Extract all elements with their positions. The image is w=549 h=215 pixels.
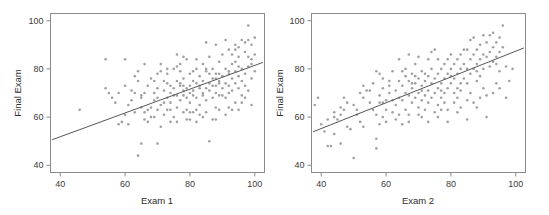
scatter-point bbox=[401, 84, 404, 87]
scatter-point bbox=[398, 80, 401, 83]
scatter-point bbox=[375, 137, 378, 140]
scatter-point bbox=[385, 109, 388, 112]
scatter-plot-exam2-svg: 406080100 406080100 Exam 2 Final Exam bbox=[274, 0, 549, 215]
scatter-point bbox=[104, 58, 107, 61]
scatter-point bbox=[182, 56, 185, 59]
scatter-point bbox=[476, 70, 479, 73]
scatter-point bbox=[166, 72, 169, 75]
scatter-point bbox=[189, 92, 192, 95]
scatter-point bbox=[231, 77, 234, 80]
scatter-point bbox=[437, 87, 440, 90]
scatter-point bbox=[208, 56, 211, 59]
scatter-point bbox=[411, 101, 414, 104]
scatter-point bbox=[498, 87, 501, 90]
scatter-point bbox=[450, 82, 453, 85]
scatter-point bbox=[469, 72, 472, 75]
scatter-point bbox=[356, 109, 359, 112]
scatter-point bbox=[153, 116, 156, 119]
scatter-point bbox=[385, 121, 388, 124]
y-axis-label-left: Final Exam bbox=[12, 69, 23, 117]
scatter-point bbox=[472, 36, 475, 39]
scatter-point bbox=[218, 60, 221, 63]
x-tick-label: 80 bbox=[446, 179, 456, 189]
scatter-point bbox=[404, 92, 407, 95]
scatter-point bbox=[427, 58, 430, 61]
scatter-point bbox=[198, 75, 201, 78]
scatter-point bbox=[234, 48, 237, 51]
scatter-point bbox=[153, 80, 156, 83]
scatter-point bbox=[369, 89, 372, 92]
scatter-point bbox=[359, 121, 362, 124]
scatter-point bbox=[466, 118, 469, 121]
scatter-point bbox=[137, 154, 140, 157]
y-tick-label: 60 bbox=[33, 112, 43, 122]
scatter-point bbox=[218, 94, 221, 97]
scatter-point bbox=[179, 63, 182, 66]
scatter-point bbox=[417, 77, 420, 80]
scatter-point bbox=[420, 99, 423, 102]
scatter-point bbox=[237, 87, 240, 90]
scatter-point bbox=[391, 111, 394, 114]
scatter-point bbox=[169, 109, 172, 112]
scatter-point bbox=[231, 63, 234, 66]
scatter-point bbox=[440, 97, 443, 100]
scatter-point bbox=[456, 111, 459, 114]
scatter-point bbox=[495, 41, 498, 44]
scatter-point bbox=[326, 145, 329, 148]
x-axis-ticks-right bbox=[321, 173, 516, 177]
scatter-point bbox=[352, 157, 355, 160]
scatter-point bbox=[140, 94, 143, 97]
scatter-point bbox=[430, 97, 433, 100]
scatter-point bbox=[336, 118, 339, 121]
scatter-point bbox=[111, 97, 114, 100]
scatter-point bbox=[134, 111, 137, 114]
scatter-point bbox=[446, 58, 449, 61]
x-tick-label: 40 bbox=[55, 179, 65, 189]
scatter-point bbox=[417, 56, 420, 59]
scatter-point bbox=[179, 84, 182, 87]
scatter-point bbox=[159, 63, 162, 66]
scatter-point bbox=[163, 101, 166, 104]
scatter-point bbox=[241, 80, 244, 83]
scatter-point bbox=[202, 92, 205, 95]
scatter-point bbox=[511, 68, 514, 71]
scatter-point bbox=[395, 104, 398, 107]
scatter-point bbox=[205, 41, 208, 44]
scatter-point bbox=[202, 80, 205, 83]
scatter-point bbox=[202, 116, 205, 119]
scatter-point bbox=[443, 101, 446, 104]
scatter-point bbox=[463, 63, 466, 66]
scatter-point bbox=[156, 97, 159, 100]
scatter-point bbox=[224, 82, 227, 85]
scatter-point bbox=[202, 94, 205, 97]
scatter-point bbox=[166, 68, 169, 71]
scatter-point bbox=[437, 116, 440, 119]
scatter-point bbox=[192, 111, 195, 114]
scatter-point bbox=[237, 46, 240, 49]
scatter-point bbox=[433, 111, 436, 114]
scatter-point bbox=[453, 77, 456, 80]
scatter-point bbox=[359, 92, 362, 95]
scatter-point bbox=[176, 53, 179, 56]
scatter-point bbox=[420, 70, 423, 73]
scatter-point bbox=[378, 72, 381, 75]
x-tick-label: 80 bbox=[185, 179, 195, 189]
scatter-point bbox=[446, 109, 449, 112]
scatter-point bbox=[502, 46, 505, 49]
scatter-point bbox=[163, 113, 166, 116]
scatter-point bbox=[382, 116, 385, 119]
scatter-point bbox=[472, 101, 475, 104]
scatter-point bbox=[146, 121, 149, 124]
scatter-point bbox=[505, 65, 508, 68]
scatter-point bbox=[182, 94, 185, 97]
scatter-point bbox=[469, 92, 472, 95]
scatter-point bbox=[388, 92, 391, 95]
scatter-point bbox=[495, 56, 498, 59]
scatter-point bbox=[134, 92, 137, 95]
scatter-point bbox=[169, 84, 172, 87]
scatter-point bbox=[205, 99, 208, 102]
scatter-point bbox=[440, 109, 443, 112]
scatter-point bbox=[211, 97, 214, 100]
scatter-point bbox=[453, 92, 456, 95]
scatter-point bbox=[244, 72, 247, 75]
